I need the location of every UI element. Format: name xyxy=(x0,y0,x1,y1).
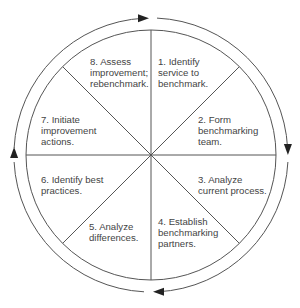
arrow-left-icon xyxy=(153,288,164,296)
step-3-line-1: 3. Analyze xyxy=(198,174,267,185)
step-7-label: 7. Initiate improvement actions. xyxy=(41,114,96,147)
step-4-line-1: 4. Establish xyxy=(158,216,218,227)
step-5-label: 5. Analyze differences. xyxy=(89,221,138,243)
step-1-line-2: service to xyxy=(158,67,208,78)
arrow-right-icon xyxy=(138,14,149,22)
step-2-line-2: benchmarking xyxy=(198,125,258,136)
sector-dividers xyxy=(26,30,276,280)
step-2-line-3: team. xyxy=(198,136,258,147)
step-1-line-1: 1. Identify xyxy=(158,56,208,67)
step-3-label: 3. Analyze current process. xyxy=(198,174,267,196)
step-2-line-1: 2. Form xyxy=(198,114,258,125)
step-5-line-2: differences. xyxy=(89,232,138,243)
step-5-line-1: 5. Analyze xyxy=(89,221,138,232)
cycle-graphic xyxy=(0,0,300,308)
step-6-line-1: 6. Identify best xyxy=(41,174,103,185)
arrow-up-icon xyxy=(10,147,18,158)
step-3-line-2: current process. xyxy=(198,185,267,196)
step-7-line-3: actions. xyxy=(41,136,96,147)
step-8-label: 8. Assess improvement; rebenchmark. xyxy=(90,56,149,89)
step-6-label: 6. Identify best practices. xyxy=(41,174,103,196)
step-4-line-3: partners. xyxy=(158,238,218,249)
step-8-line-2: improvement; xyxy=(90,67,149,78)
step-1-label: 1. Identify service to benchmark. xyxy=(158,56,208,89)
arrow-down-icon xyxy=(284,144,292,155)
step-7-line-2: improvement xyxy=(41,125,96,136)
step-8-line-3: rebenchmark. xyxy=(90,78,149,89)
step-7-line-1: 7. Initiate xyxy=(41,114,96,125)
step-2-label: 2. Form benchmarking team. xyxy=(198,114,258,147)
step-1-line-3: benchmark. xyxy=(158,78,208,89)
benchmarking-cycle-diagram: 1. Identify service to benchmark. 2. For… xyxy=(0,0,300,308)
step-4-label: 4. Establish benchmarking partners. xyxy=(158,216,218,249)
step-6-line-2: practices. xyxy=(41,185,103,196)
step-8-line-1: 8. Assess xyxy=(90,56,149,67)
step-4-line-2: benchmarking xyxy=(158,227,218,238)
